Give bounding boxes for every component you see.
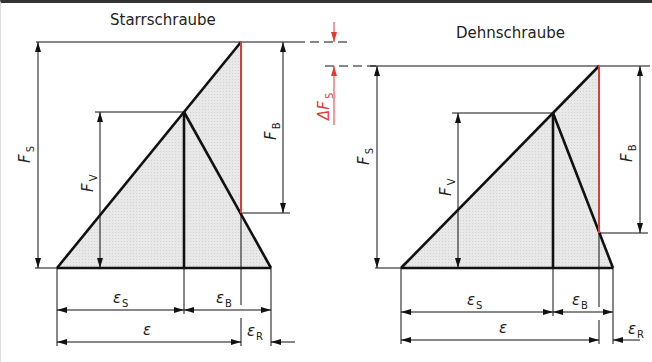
svg-text:FB: FB (262, 122, 282, 140)
right-label-epsR: εR (628, 320, 644, 340)
svg-text:FB: FB (618, 144, 638, 162)
bolt-force-diagram: Starrschraube FS FV F (0, 0, 652, 362)
delta-fs-dimension: ΔFS (310, 22, 380, 125)
right-label-epsS: εS (467, 291, 482, 311)
svg-text:FS: FS (16, 146, 36, 163)
svg-text:FV: FV (437, 178, 457, 196)
svg-text:FV: FV (79, 174, 99, 192)
svg-text:FS: FS (355, 148, 375, 165)
right-diagram: Dehnschraube FS FV FB (355, 24, 650, 344)
svg-text:ΔFS: ΔFS (315, 93, 335, 121)
left-shaded-area (57, 42, 271, 268)
left-diagram: Starrschraube FS FV F (16, 11, 305, 346)
left-label-FV: FV (79, 174, 99, 192)
left-label-epsB: εB (216, 289, 232, 309)
right-shaded-area (401, 66, 613, 268)
right-title: Dehnschraube (456, 24, 565, 42)
left-label-epsS: εS (113, 289, 128, 309)
left-label-FB: FB (262, 122, 282, 140)
left-label-FS: FS (16, 146, 36, 163)
right-label-FS: FS (355, 148, 375, 165)
right-label-epsB: εB (572, 291, 588, 311)
left-label-epsR: εR (247, 322, 263, 342)
right-label-FB: FB (618, 144, 638, 162)
left-label-eps: ε (143, 321, 151, 339)
delta-fs-label: ΔFS (315, 93, 335, 121)
right-label-FV: FV (437, 178, 457, 196)
right-label-eps: ε (499, 319, 507, 337)
left-title: Starrschraube (110, 11, 216, 29)
